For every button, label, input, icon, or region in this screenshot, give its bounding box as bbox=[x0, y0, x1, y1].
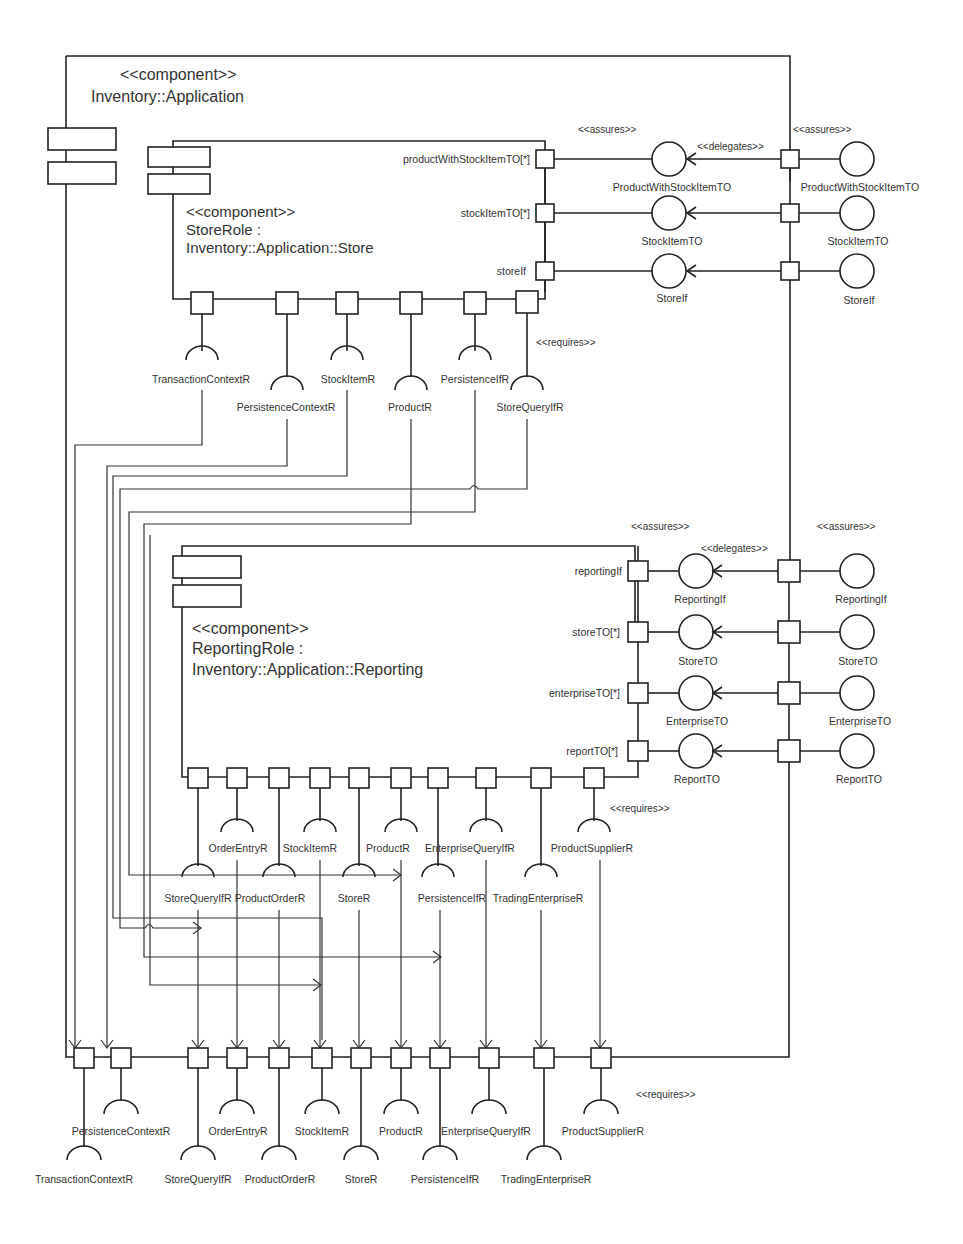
required-interface-label: ProductOrderR bbox=[245, 1173, 316, 1185]
port-productsupplierr[interactable] bbox=[584, 768, 604, 788]
port-transactioncontextr[interactable] bbox=[191, 292, 213, 314]
required-socket bbox=[584, 1100, 618, 1114]
provided-interface-ball bbox=[679, 734, 713, 768]
provided-interface-ball bbox=[652, 142, 686, 176]
port-reportingif[interactable] bbox=[628, 561, 648, 581]
port-storequeryifr[interactable] bbox=[188, 768, 208, 788]
required-interface-label: ProductSupplierR bbox=[562, 1125, 645, 1137]
port-storequeryifr[interactable] bbox=[516, 291, 538, 313]
port-productwithstockitemto[interactable] bbox=[536, 150, 554, 168]
outer-component-name: Inventory::Application bbox=[91, 88, 244, 105]
port-enterpriseto[interactable] bbox=[628, 683, 648, 703]
required-interface-label: OrderEntryR bbox=[209, 842, 268, 854]
outer-port-orderentryr[interactable] bbox=[227, 1048, 247, 1068]
port-label: storeTO[*] bbox=[572, 626, 620, 638]
outer-port-productr[interactable] bbox=[391, 1048, 411, 1068]
port-persistenceifr[interactable] bbox=[428, 768, 448, 788]
outer-stereotype: <<component>> bbox=[120, 66, 237, 83]
port-reportto[interactable] bbox=[628, 741, 648, 761]
requires-label: <<requires>> bbox=[536, 337, 596, 348]
required-interface-label: ProductR bbox=[366, 842, 410, 854]
required-interface-label: ProductR bbox=[379, 1125, 423, 1137]
outer-port-stockitemto[interactable] bbox=[781, 204, 799, 222]
outer-port-reportto[interactable] bbox=[778, 740, 800, 762]
outer-port-enterpriseto[interactable] bbox=[778, 682, 800, 704]
required-socket bbox=[344, 1146, 378, 1160]
provided-interface-ball bbox=[679, 676, 713, 710]
required-socket bbox=[305, 1100, 339, 1114]
required-interface-label: StoreR bbox=[345, 1173, 378, 1185]
outer-port-stockitemr[interactable] bbox=[312, 1048, 332, 1068]
outer-port-enterprisequeryifr[interactable] bbox=[479, 1048, 499, 1068]
required-interface-label: PersistenceContextR bbox=[237, 401, 336, 413]
interface-label: StockItemTO bbox=[827, 235, 888, 247]
port-persistenceifr[interactable] bbox=[464, 292, 486, 314]
required-interface-label: PersistenceContextR bbox=[72, 1125, 171, 1137]
outer-port-transactioncontextr[interactable] bbox=[74, 1048, 94, 1068]
store-role-component: <<component>> StoreRole : Inventory::App… bbox=[148, 124, 919, 570]
port-tradingenterpriser[interactable] bbox=[531, 768, 551, 788]
port-stockitemto[interactable] bbox=[536, 204, 554, 222]
port-storeto[interactable] bbox=[628, 622, 648, 642]
required-socket bbox=[511, 376, 543, 390]
outer-port-reportingif[interactable] bbox=[778, 560, 800, 582]
reporting-component-name: ReportingRole : bbox=[192, 640, 303, 657]
outer-port-storequeryifr[interactable] bbox=[188, 1048, 208, 1068]
port-stockitemr[interactable] bbox=[336, 292, 358, 314]
assures-label: <<assures>> bbox=[578, 124, 637, 135]
component-icon-tab bbox=[148, 147, 210, 167]
interface-label: ReportTO bbox=[836, 773, 882, 785]
outer-provided-interface-ball bbox=[840, 615, 874, 649]
outer-port-productsupplierr[interactable] bbox=[591, 1048, 611, 1068]
requires-label: <<requires>> bbox=[610, 803, 670, 814]
required-socket bbox=[472, 1100, 506, 1114]
required-socket bbox=[384, 1100, 418, 1114]
store-component-type: Inventory::Application::Store bbox=[186, 239, 374, 256]
component-icon-tab bbox=[48, 128, 116, 150]
required-interface-label: TradingEnterpriseR bbox=[501, 1173, 592, 1185]
provided-interface-ball bbox=[652, 196, 686, 230]
outer-port-storeto[interactable] bbox=[778, 621, 800, 643]
outer-port-persistenceifr[interactable] bbox=[430, 1048, 450, 1068]
delegates-label: <<delegates>> bbox=[701, 543, 768, 554]
store-required-ports: TransactionContextR PersistenceContextR … bbox=[152, 280, 596, 413]
required-interface-label: ProductSupplierR bbox=[551, 842, 634, 854]
port-stockitemr[interactable] bbox=[310, 768, 330, 788]
port-label: enterpriseTO[*] bbox=[549, 687, 620, 699]
outer-port-storeif[interactable] bbox=[781, 262, 799, 280]
outer-port-productwithstockitemto[interactable] bbox=[781, 150, 799, 168]
port-label: productWithStockItemTO[*] bbox=[403, 153, 530, 165]
port-productorderr[interactable] bbox=[269, 768, 289, 788]
store-component-name: StoreRole : bbox=[186, 221, 261, 238]
interface-label: StoreTO bbox=[838, 655, 878, 667]
port-persistencecontextr[interactable] bbox=[276, 292, 298, 314]
interface-label: ProductWithStockItemTO bbox=[801, 181, 919, 193]
outer-port-persistencecontextr[interactable] bbox=[111, 1048, 131, 1068]
port-label: storeIf bbox=[497, 265, 526, 277]
port-enterprisequeryifr[interactable] bbox=[476, 768, 496, 788]
required-interface-label: PersistenceIfR bbox=[411, 1173, 480, 1185]
interface-label: EnterpriseTO bbox=[829, 715, 891, 727]
required-socket bbox=[181, 1146, 215, 1160]
port-storeif[interactable] bbox=[536, 262, 554, 280]
interface-label: StoreTO bbox=[678, 655, 718, 667]
port-orderentryr[interactable] bbox=[227, 768, 247, 788]
required-interface-label: TransactionContextR bbox=[35, 1173, 134, 1185]
required-socket bbox=[271, 376, 303, 390]
outer-port-tradingenterpriser[interactable] bbox=[534, 1048, 554, 1068]
port-storer[interactable] bbox=[349, 768, 369, 788]
required-socket bbox=[527, 1146, 561, 1160]
outer-provided-interface-ball bbox=[840, 254, 874, 288]
required-interface-label: StockItemR bbox=[283, 842, 338, 854]
outer-port-productorderr[interactable] bbox=[269, 1048, 289, 1068]
reporting-role-component: <<component>> ReportingRole : Inventory:… bbox=[164, 521, 891, 1057]
outer-port-storer[interactable] bbox=[351, 1048, 371, 1068]
required-socket bbox=[395, 376, 427, 390]
port-productr[interactable] bbox=[400, 292, 422, 314]
required-socket bbox=[220, 1100, 254, 1114]
required-interface-label: PersistenceIfR bbox=[441, 373, 510, 385]
port-productr[interactable] bbox=[391, 768, 411, 788]
required-socket bbox=[67, 1146, 101, 1160]
provided-interface-ball bbox=[679, 554, 713, 588]
component-icon-tab bbox=[48, 162, 116, 184]
